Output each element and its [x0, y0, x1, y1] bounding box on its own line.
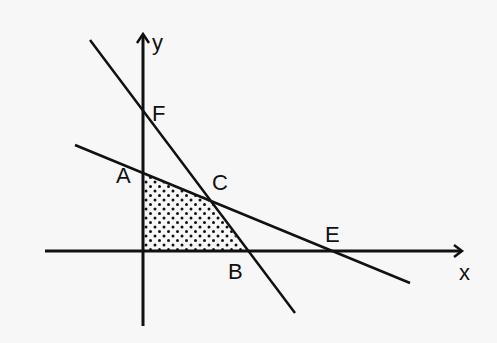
point-label-e: E	[325, 222, 340, 247]
y-axis-label: y	[152, 30, 163, 55]
point-label-f: F	[152, 101, 165, 126]
point-label-b: B	[228, 259, 243, 284]
point-label-a: A	[116, 163, 131, 188]
point-label-c: C	[212, 170, 228, 195]
x-axis-label: x	[459, 260, 470, 285]
feasible-region	[143, 173, 246, 251]
coordinate-diagram: y x F A C B E	[0, 0, 497, 343]
